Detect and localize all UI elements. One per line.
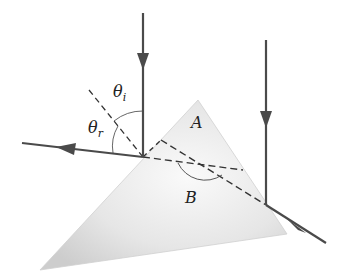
left-incident-ray: [137, 13, 149, 157]
left-reflected-ray: [22, 143, 143, 157]
prism-shape: [40, 100, 287, 270]
right-incident-ray: [260, 40, 272, 205]
theta-i-label: θi: [113, 82, 126, 104]
prism-diagram: θi θr A B: [0, 0, 356, 277]
theta-i-arc: [114, 111, 143, 121]
theta-r-arc: [112, 126, 118, 153]
angle-b-label: B: [184, 188, 197, 207]
angle-a-label: A: [189, 113, 203, 132]
theta-r-label: θr: [88, 118, 104, 140]
